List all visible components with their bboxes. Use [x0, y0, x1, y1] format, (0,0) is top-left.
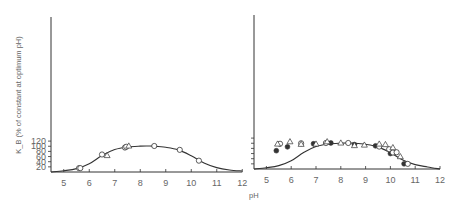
open-triangle-marker [287, 139, 293, 144]
open-circle-marker [177, 147, 182, 152]
chart-figure: 5678910111220406080100120 56789101112 K_… [0, 0, 459, 207]
x-tick-label: 9 [163, 178, 168, 188]
open-circle-marker [405, 161, 410, 166]
open-circle-marker [99, 152, 104, 157]
open-circle-marker [78, 166, 83, 171]
x-tick-label: 6 [87, 178, 92, 188]
x-tick-label: 5 [61, 178, 66, 188]
open-circle-marker [196, 158, 201, 163]
x-tick-label: 9 [363, 175, 368, 185]
x-tick-label: 8 [138, 178, 143, 188]
open-circle-marker [346, 140, 351, 145]
open-triangle-marker [382, 141, 388, 146]
x-tick-label: 12 [237, 178, 247, 188]
left-panel: 5678910111220406080100120 [31, 17, 247, 188]
x-tick-label: 10 [385, 175, 395, 185]
x-tick-label: 8 [338, 175, 343, 185]
open-triangle-marker [376, 141, 382, 146]
filled-circle-marker [285, 144, 290, 149]
right-panel: 56789101112 [251, 15, 445, 185]
open-circle-marker [394, 150, 399, 155]
fitted-curve [254, 143, 440, 169]
y-axis-title: K_B (% of constant at optimum pH) [14, 36, 23, 154]
open-triangle-marker [338, 140, 344, 145]
y-tick-label: 120 [31, 136, 46, 146]
x-tick-label: 6 [289, 175, 294, 185]
x-tick-label: 7 [313, 175, 318, 185]
x-tick-label: 11 [411, 175, 420, 185]
open-triangle-marker [104, 152, 110, 157]
x-tick-label: 10 [186, 178, 196, 188]
x-tick-label: 5 [264, 175, 269, 185]
filled-circle-marker [274, 148, 279, 153]
x-axis-title: pH [249, 191, 259, 200]
x-tick-label: 7 [112, 178, 117, 188]
x-tick-label: 12 [435, 175, 445, 185]
open-circle-marker [152, 143, 157, 148]
x-tick-label: 11 [212, 178, 221, 188]
